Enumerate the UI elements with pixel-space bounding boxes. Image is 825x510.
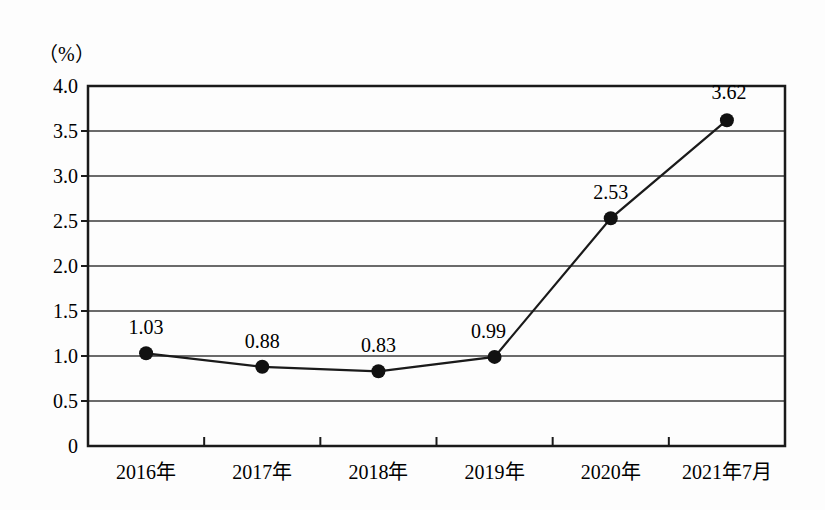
y-axis-tick-label: 1.0 [22,346,78,366]
y-axis-tick-label: 3.5 [22,121,78,141]
data-point-label: 2.53 [571,182,651,202]
y-axis-tick-label: 4.0 [22,76,78,96]
data-point-marker [371,364,385,378]
data-point-label: 1.03 [106,317,186,337]
y-axis-tick-label: 0 [22,436,78,456]
data-point-marker [720,113,734,127]
plot-area-svg [0,0,825,510]
data-point-label: 0.99 [449,321,529,341]
line-chart: （%） 00.51.01.52.02.53.03.54.0 2016年2017年… [0,0,825,510]
data-point-label: 3.62 [689,82,769,102]
data-point-marker [604,211,618,225]
data-point-label: 0.83 [338,335,418,355]
y-axis-tick-label: 3.0 [22,166,78,186]
y-axis-tick-label: 1.5 [22,301,78,321]
data-point-marker [139,346,153,360]
data-point-label: 0.88 [222,331,302,351]
data-point-marker [488,350,502,364]
x-axis-tick-label: 2021年7月 [657,461,797,483]
y-axis-tick-label: 0.5 [22,391,78,411]
data-point-marker [255,360,269,374]
y-axis-tick-label: 2.5 [22,211,78,231]
gridlines-group [81,131,785,401]
x-ticks-group [204,437,669,446]
y-axis-tick-label: 2.0 [22,256,78,276]
